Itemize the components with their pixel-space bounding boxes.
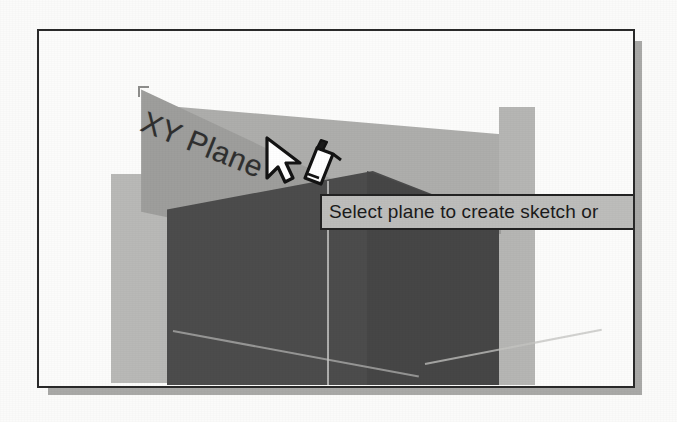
edge-ground-axis-left <box>173 330 419 378</box>
cad-window-frame: XY Plane Select plane to create sketch o… <box>37 29 635 388</box>
model-viewport[interactable]: XY Plane Select plane to create sketch o… <box>39 31 633 386</box>
corner-marker-icon <box>138 86 149 97</box>
plane-right-light[interactable] <box>167 75 533 385</box>
sketch-pencil-icon <box>305 140 341 184</box>
plane-name-label: XY Plane <box>136 105 268 185</box>
edge-ground-axis-right <box>425 329 602 365</box>
plane-ground-right[interactable] <box>499 107 535 385</box>
status-tooltip-text: Select plane to create sketch or <box>322 201 598 223</box>
status-tooltip: Select plane to create sketch or <box>320 194 633 230</box>
mouse-cursor-group <box>261 134 347 196</box>
plane-left-light[interactable] <box>111 174 167 383</box>
arrow-cursor-icon <box>267 138 300 182</box>
